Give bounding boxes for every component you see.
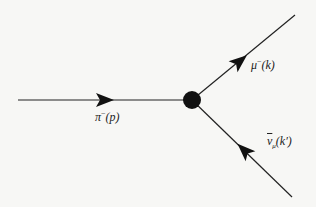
vertex-dot [183,91,201,109]
pion-label: π−(p) [95,109,120,125]
muon-label: μ−(k) [251,57,275,73]
antineutrino-label: νμ(k′) [267,134,292,150]
feynman-diagram [0,0,316,207]
